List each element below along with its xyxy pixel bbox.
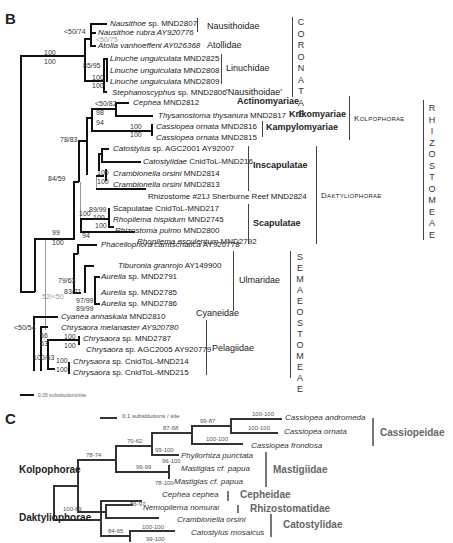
branch [103,91,107,93]
taxon: Chrysaora sp. MND2787 [83,334,171,343]
bracket [227,491,229,501]
family-label: Rhizostomatidae [250,503,330,514]
branch [91,108,116,110]
branch [40,326,48,328]
branch [94,303,100,305]
branch [100,500,142,502]
support-value: 79/63 [58,277,76,285]
branch [100,500,102,536]
branch [77,459,116,461]
branch [191,443,243,445]
support-value: 99-100 [155,447,174,453]
branch [84,38,86,80]
support-value: 100 [93,214,105,222]
branch [34,238,36,292]
phylogeny-figure: B 100 100 <50/74 <50/75 Nausithoe sp. MN… [0,0,453,543]
branch [191,425,193,444]
branch [105,517,159,519]
branch [68,362,70,374]
taxon: Nemopilema nomurai [143,503,219,512]
branch [90,45,96,47]
branch [73,181,75,240]
branch [103,58,108,60]
support-value: 100/63 [33,354,54,362]
taxon: Chrysaora melanaster AY920780 [61,323,178,332]
support-value: 100 [92,74,104,82]
taxon: Cassiopea ornata MND2816 [156,122,257,131]
branch [20,55,22,292]
branch [78,336,80,345]
family-label: Linuchidae [226,63,270,73]
family-label: Ulmaridae [239,275,280,285]
family-label: Cassiopeidae [380,427,444,438]
branch [191,425,231,427]
support-value: 100-100 [206,436,228,442]
group-label: Kolpophorae [354,114,405,123]
branch [33,316,58,318]
order-label-rhizostomeae: RHIZOSTOMEAE [427,103,437,241]
support-value: 100 [130,131,142,139]
branch [77,244,97,246]
branch [90,23,92,46]
support-value: 83/71 [64,288,82,296]
support-value: 70-62 [127,438,142,444]
taxon: Linuche unguiculata MND2808 [110,66,219,75]
taxon: Tiburonia granrojo AY149900 [118,261,221,270]
taxon: Cassiopea ornata MND2815 [156,133,257,142]
branch [108,208,110,227]
branch [101,148,103,162]
branch [168,465,170,479]
bracket [292,17,293,97]
branch [230,432,278,434]
taxon: Stephanoscyphus sp. MND2806 [112,88,227,97]
taxon: Chrysaora sp. CnidToL-MND215 [73,368,189,377]
support-value: 100 [56,357,68,365]
taxon: Crambionella orsini MND2813 [113,180,220,189]
support-value: <50/82 [95,100,117,108]
taxon: Mastigias cf. papua [174,477,243,486]
taxon: Rhizostoma pulmo MND2800 [115,226,220,235]
taxon: Thysanostoma thysanura MND2817 [158,111,286,120]
support-value: 94 [96,119,104,127]
support-value: <50/54 [14,324,36,332]
taxon: Catostylus mosaicus [191,528,264,537]
branch [78,140,86,142]
taxon: Catostylus sp. AGC2001 AY92007 [113,144,234,153]
bracket [265,452,267,487]
suborder-label: Krikomyariae [289,109,346,119]
support-value: 98 [96,109,104,117]
bracket [233,251,234,311]
panel-c-label: C [5,410,16,427]
branch [108,226,114,228]
support-value: 100 [92,82,104,90]
support-value: 100 [95,222,107,230]
taxon: Cassiopea ornata [284,427,347,436]
support-value: 99-100 [146,536,165,542]
family-label: Nausithoidae [207,21,260,31]
support-value: 52/<50 [42,293,64,301]
support-value: 94 [82,232,90,240]
bracket [206,320,207,375]
branch [230,418,282,420]
support-value: 100 [64,342,76,350]
branch [115,115,153,117]
branch [101,161,141,163]
taxon: Mastigias cf. papua [181,464,250,473]
suborder-label: Inscapulatae [253,160,308,170]
branch [115,471,170,473]
taxon: Cassiopea andromeda [285,413,366,422]
support-value: 89/99 [89,206,107,214]
support-value: 96-100 [162,458,181,464]
taxon: Linuche unguiculata MND2825 [110,54,219,63]
taxon: Crambionella orsini MND2814 [113,169,220,178]
taxon: Cephea MND2812 [133,98,199,107]
bracket [270,514,272,537]
support-value: 78-100 [155,480,174,486]
suborder-label: Actinomyariae [237,96,299,106]
branch [230,418,232,433]
support-value: 84-65 [108,528,123,534]
taxon: Aurelia sp. MND2785 [101,288,177,297]
bracket [349,96,350,140]
taxon: Phacellophora camtschatica AY920778 [101,240,240,249]
taxon: Catostylidae CnidToL-MND216 [143,157,253,166]
